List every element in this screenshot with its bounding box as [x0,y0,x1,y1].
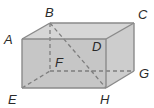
label-H: H [100,92,110,107]
label-C: C [138,7,148,22]
label-E: E [8,92,17,107]
label-D: D [92,39,101,54]
label-B: B [45,5,54,20]
label-G: G [139,66,149,81]
label-A: A [3,32,13,47]
label-F: F [55,55,64,70]
prism-diagram: A B C D E F G H [0,0,154,108]
